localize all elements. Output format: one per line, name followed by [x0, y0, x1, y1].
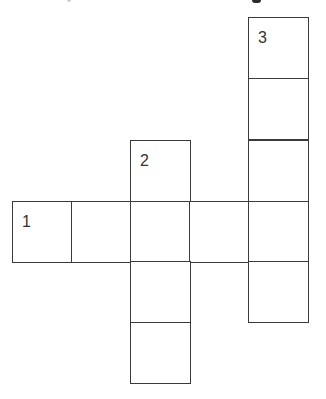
clue-number-3: 3: [258, 30, 267, 46]
crossword-cell-c2-4[interactable]: [130, 322, 191, 384]
crossword-cell-c1-5[interactable]: [248, 201, 309, 263]
crossword-cell-c1-3[interactable]: [130, 201, 191, 263]
clipped-text-fragment-right: [252, 0, 261, 3]
crossword-cell-c3-2[interactable]: [248, 78, 309, 140]
crossword-cell-c1-2[interactable]: [71, 201, 132, 263]
crossword-cell-c1-4[interactable]: [189, 201, 250, 263]
clipped-text-fragment-left: [67, 0, 71, 2]
crossword-cell-c2-1[interactable]: 2: [130, 140, 191, 202]
clue-number-2: 2: [140, 153, 149, 169]
crossword-cell-c1-1[interactable]: 1: [12, 201, 73, 263]
crossword-cell-c3-5[interactable]: [248, 261, 309, 323]
clue-number-1: 1: [22, 214, 31, 230]
crossword-cell-c2-3[interactable]: [130, 261, 191, 323]
crossword-cell-c3-1[interactable]: 3: [248, 17, 309, 79]
crossword-cell-c3-3[interactable]: [248, 140, 309, 202]
